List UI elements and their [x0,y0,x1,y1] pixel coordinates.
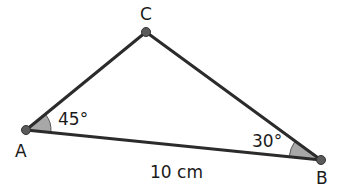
vertex-label-c: C [140,4,152,24]
side-length-label-ab: 10 cm [150,162,203,182]
angle-label-b: 30° [252,131,282,151]
vertex-dot-a [22,126,31,135]
vertex-dot-c [142,28,151,37]
vertex-label-b: B [316,168,328,188]
geometry-diagram-canvas: A B C 45° 30° 10 cm [0,0,338,188]
angle-label-a: 45° [58,109,88,129]
triangle-figure: A B C 45° 30° 10 cm [0,0,338,188]
triangle-side-cb [146,32,321,160]
vertex-dot-b [317,156,326,165]
vertex-label-a: A [15,141,27,161]
